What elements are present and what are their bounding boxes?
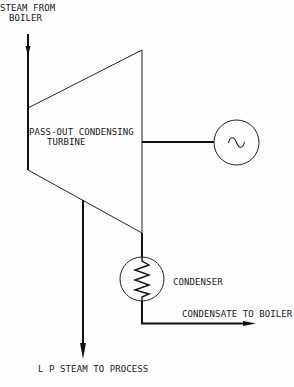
generator xyxy=(214,120,259,165)
turbine-label-line1: PASS-OUT CONDENSING xyxy=(29,127,134,137)
lp-steam-label: L P STEAM TO PROCESS xyxy=(38,364,148,374)
lp-steam-arrow xyxy=(80,200,86,359)
arrow-right-icon xyxy=(243,321,256,326)
arrow-down-icon xyxy=(26,46,31,56)
steam-inlet-label-line1: STEAM FROM xyxy=(0,3,56,13)
steam-inlet-arrow xyxy=(26,34,31,108)
ac-tilde-icon xyxy=(229,138,245,148)
steam-inlet-label-line2: BOILER xyxy=(9,13,43,23)
condenser-label: CONDENSER xyxy=(173,277,223,287)
condenser xyxy=(120,257,164,301)
arrow-down-icon xyxy=(80,343,86,359)
zigzag-coil-icon xyxy=(135,257,149,301)
turbine-schematic: STEAM FROM BOILER PASS-OUT CONDENSING TU… xyxy=(0,0,294,387)
turbine-label-line2: TURBINE xyxy=(47,137,86,147)
diagram-canvas: STEAM FROM BOILER PASS-OUT CONDENSING TU… xyxy=(0,0,294,387)
condensate-label: CONDENSATE TO BOILER xyxy=(182,309,293,319)
